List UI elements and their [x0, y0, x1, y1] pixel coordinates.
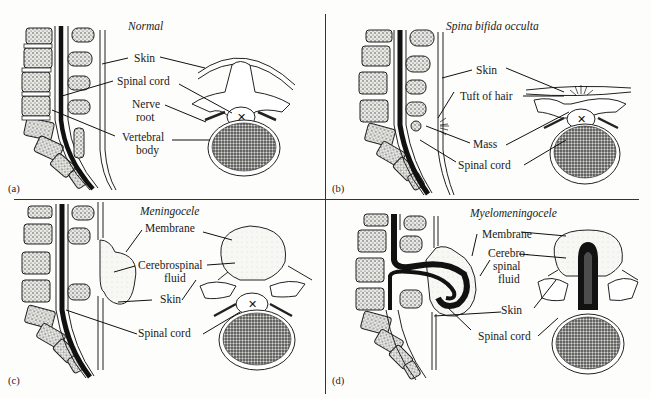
- panel-normal: ✕ Normal Skin Spinal cord Nerve root Ver…: [0, 0, 325, 199]
- label-csf-line2: spinal: [493, 260, 520, 272]
- panel-meningocele: ✕ Meningocele Membrane Cerebrospinal flu…: [0, 200, 325, 399]
- panel-id: (d): [332, 375, 344, 386]
- panel-title: Spina bifida occulta: [446, 20, 539, 32]
- svg-text:✕: ✕: [248, 298, 257, 310]
- label-membrane: Membrane: [145, 222, 195, 234]
- svg-text:✕: ✕: [577, 113, 586, 125]
- label-vertebral-body-line2: body: [136, 144, 159, 156]
- label-csf-line1: Cerebrospinal: [138, 259, 203, 271]
- label-spinal-cord: Spinal cord: [458, 159, 511, 171]
- label-csf-line1: Cerebro-: [488, 247, 529, 259]
- label-csf-line3: fluid: [498, 273, 520, 285]
- panel-title: Normal: [128, 20, 163, 32]
- label-skin: Skin: [501, 304, 522, 316]
- panel-id: (c): [8, 375, 20, 386]
- label-skin: Skin: [160, 293, 181, 305]
- panel-id: (a): [8, 183, 20, 194]
- label-tuft-of-hair: Tuft of hair: [460, 90, 513, 102]
- label-skin: Skin: [134, 52, 155, 64]
- label-nerve-root-line2: root: [136, 111, 155, 123]
- label-membrane: Membrane: [482, 228, 532, 240]
- label-skin: Skin: [476, 64, 497, 76]
- label-nerve-root-line1: Nerve: [132, 98, 160, 110]
- panel-myelomeningocele: Myelomeningocele Membrane Cerebro- spina…: [326, 200, 651, 399]
- label-spinal-cord: Spinal cord: [478, 330, 531, 342]
- panel-id: (b): [332, 183, 344, 194]
- label-vertebral-body-line1: Vertebral: [122, 131, 164, 143]
- label-spinal-cord: Spinal cord: [138, 327, 191, 339]
- label-csf-line2: fluid: [164, 272, 186, 284]
- panel-title: Myelomeningocele: [470, 207, 557, 219]
- panel-title: Meningocele: [140, 205, 199, 217]
- label-spinal-cord: Spinal cord: [117, 75, 170, 87]
- panel-spina-bifida-occulta: ✕ Spina bifida occulta Skin Tuft of hair…: [326, 0, 651, 199]
- label-mass: Mass: [473, 138, 497, 150]
